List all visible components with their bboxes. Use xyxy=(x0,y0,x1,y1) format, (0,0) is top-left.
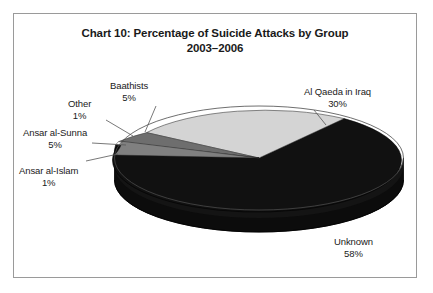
slice-label-percent: 1% xyxy=(68,110,91,122)
slice-label-percent: 58% xyxy=(334,248,373,260)
slice-label-ansar-al-sunna: Ansar al-Sunna 5% xyxy=(23,127,87,150)
slice-label-al-qaeda-in-iraq: Al Qaeda in Iraq 30% xyxy=(304,86,371,109)
slice-label-name: Unknown xyxy=(334,236,373,247)
slice-label-ansar-al-islam: Ansar al-Islam 1% xyxy=(19,165,78,188)
pie-top-face xyxy=(112,106,403,212)
slice-label-name: Ansar al-Sunna xyxy=(23,127,87,138)
slice-label-other: Other 1% xyxy=(68,98,91,121)
chart-frame: Chart 10: Percentage of Suicide Attacks … xyxy=(13,13,417,278)
slice-label-baathists: Baathists 5% xyxy=(110,80,148,103)
slice-label-percent: 5% xyxy=(110,92,148,104)
slice-label-name: Baathists xyxy=(110,80,148,91)
slice-label-name: Ansar al-Islam xyxy=(19,165,78,176)
slice-label-percent: 30% xyxy=(304,98,371,110)
slice-label-unknown: Unknown 58% xyxy=(334,236,373,259)
slice-label-name: Al Qaeda in Iraq xyxy=(304,86,371,97)
slice-label-percent: 5% xyxy=(23,139,87,151)
slice-label-percent: 1% xyxy=(19,177,78,189)
leader-line-other xyxy=(106,120,133,136)
slice-label-name: Other xyxy=(68,98,91,109)
leader-line-baathists xyxy=(145,106,156,132)
